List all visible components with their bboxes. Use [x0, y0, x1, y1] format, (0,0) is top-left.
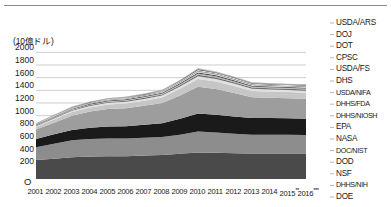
- legend-item: DOC/NIST: [336, 146, 367, 156]
- x-axis-tick-label: 2001: [28, 187, 44, 196]
- legend-leader-line: [330, 87, 334, 92]
- x-axis-tick-label: 2012: [226, 187, 242, 196]
- x-axis-tick-label: 2015**: [280, 187, 299, 198]
- legend-item: NSF: [336, 169, 352, 179]
- y-axis-tick-label: 200: [20, 157, 34, 166]
- y-axis-tick-label: 1200: [15, 94, 34, 103]
- legend-leader-line: [330, 109, 334, 163]
- legend-item: DHHS/NIH: [336, 180, 368, 190]
- x-axis-tick-label: 2008: [154, 187, 170, 196]
- x-axis-tick-label: 2003: [64, 187, 80, 196]
- x-axis-tick-label: 2013: [244, 187, 260, 196]
- legend-leader-line: [330, 89, 334, 116]
- legend-leader-line: [330, 166, 334, 197]
- y-axis-tick-label: 1800: [15, 56, 34, 65]
- legend-item: CPSC: [336, 53, 358, 63]
- legend-leader-line: [330, 46, 334, 85]
- legend-leader-line: [330, 81, 334, 87]
- x-axis-tick-label: 2004: [82, 187, 98, 196]
- y-axis-labels: 200400600800100012001400160018002000: [0, 40, 34, 186]
- y-axis-tick-label: 600: [20, 132, 34, 141]
- x-axis-tick-label: 2011: [208, 187, 223, 196]
- legend-item: USDA/ARS: [336, 18, 376, 28]
- legend-leader-line: [330, 90, 334, 127]
- x-axis-tick-label: 2014: [262, 187, 278, 196]
- legend-item: DHHS/FDA: [336, 99, 370, 109]
- x-axis-tick-label: 2002: [46, 187, 62, 196]
- legend-leader-line: [330, 92, 334, 139]
- x-axis-tick-label: 2007: [136, 187, 152, 196]
- legend-item: DOJ: [336, 30, 352, 40]
- y-axis-tick-label: 800: [20, 119, 34, 128]
- legend-leader-line: [330, 35, 334, 85]
- y-axis-tick-label: 1000: [15, 107, 34, 116]
- y-axis-zero-label: O: [24, 176, 31, 187]
- area-series-group: [36, 68, 306, 179]
- y-axis-tick-label: 2000: [15, 43, 34, 52]
- legend-item: DHS: [336, 76, 353, 86]
- legend-leader-line: [330, 69, 334, 86]
- x-axis-labels: 2001200220032004200520062007200820092010…: [36, 183, 308, 203]
- legend-item: USDA/FS: [336, 64, 370, 74]
- legend-item: EPA: [336, 122, 351, 132]
- stacked-area-plot: [36, 46, 306, 179]
- legend: USDA/ARSDOJDOTCPSCUSDA/FSDHSUSDA/NIFADHH…: [330, 6, 391, 202]
- y-axis-tick-label: 1600: [15, 69, 34, 78]
- legend-item: NASA: [336, 134, 357, 144]
- y-axis-tick-label: 1400: [15, 81, 34, 90]
- x-axis-tick-label: 2006: [118, 187, 134, 196]
- x-axis-tick-label: 2010: [190, 187, 206, 196]
- legend-item: DOD: [336, 157, 353, 167]
- x-axis-tick-label: 2016***: [298, 187, 319, 198]
- legend-item: DHHS/NIOSH: [336, 111, 377, 121]
- y-axis-tick-label: 400: [20, 145, 34, 154]
- legend-leader-line: [330, 23, 334, 84]
- legend-leader-line: [330, 88, 334, 104]
- legend-item: DOE: [336, 192, 353, 202]
- legend-item: USDA/NIFA: [336, 88, 370, 98]
- chart-figure: (10億ドル) 20040060080010001200140016001800…: [0, 0, 391, 207]
- x-axis-tick-label: 2005: [100, 187, 116, 196]
- x-axis-tick-label: 2009: [172, 187, 188, 196]
- legend-item: DOT: [336, 41, 353, 51]
- plot-svg: [36, 46, 306, 179]
